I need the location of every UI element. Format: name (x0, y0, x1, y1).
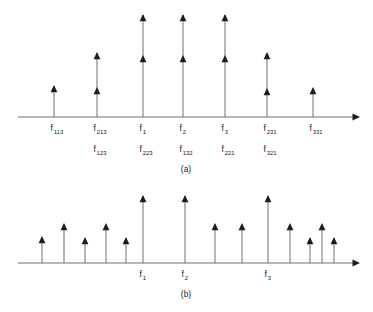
panel-b: f1f2f3(b) (18, 195, 360, 299)
line-b-13-arrow-icon (319, 223, 326, 230)
label-f331-sub: 331 (313, 129, 324, 135)
sub-head-223-arrow-icon (140, 55, 147, 62)
label-f321: f321 (264, 144, 278, 156)
panel-a: f113f213f1f2f3f231f331f123f223f132f221f3… (18, 14, 360, 174)
short-line-331-arrow-icon (310, 87, 317, 94)
label-f231: f231 (264, 123, 278, 135)
label-f321-sub: 321 (267, 150, 278, 156)
sub-head-321-arrow-icon (264, 88, 271, 95)
label-f221: f221 (222, 144, 236, 156)
line-b-14-arrow-icon (331, 237, 338, 244)
label-b-f1-sub: 1 (143, 275, 147, 281)
tall-line-1-arrow-icon (140, 14, 147, 21)
label-f132-sub: 132 (183, 150, 194, 156)
label-f213-sub: 213 (97, 129, 108, 135)
label-f221-sub: 221 (225, 150, 236, 156)
label-b-f3: f3 (265, 269, 272, 281)
line-b-10-arrow-icon (265, 195, 272, 202)
mid-line-231-arrow-icon (264, 52, 271, 59)
label-b-f2-sub: 2 (185, 275, 189, 281)
line-b-11-arrow-icon (287, 223, 294, 230)
line-b-8-arrow-icon (212, 223, 219, 230)
label-f223-sub: 223 (143, 150, 154, 156)
line-b-5-arrow-icon (123, 237, 130, 244)
label-f2: f2 (180, 123, 187, 135)
panel-b-axis-arrow-icon (353, 260, 361, 267)
spectrum-figure: f113f213f1f2f3f231f331f123f223f132f221f3… (0, 0, 373, 312)
label-f1: f1 (140, 123, 147, 135)
line-b-4-arrow-icon (103, 223, 110, 230)
label-f132: f132 (180, 144, 194, 156)
panel-a-caption: (a) (181, 164, 192, 174)
line-b-12-arrow-icon (307, 237, 314, 244)
panel-a-axis-arrow-icon (353, 114, 361, 121)
label-f3: f3 (222, 123, 229, 135)
label-b-f3-sub: 3 (268, 275, 272, 281)
label-f213: f213 (94, 123, 108, 135)
line-b-3-arrow-icon (82, 237, 89, 244)
label-f123-sub: 123 (97, 150, 108, 156)
mid-line-213-arrow-icon (94, 52, 101, 59)
label-f113: f113 (51, 123, 64, 135)
line-b-7-arrow-icon (182, 195, 189, 202)
label-f331: f331 (310, 123, 324, 135)
label-f2-sub: 2 (183, 129, 187, 135)
label-b-f1: f1 (140, 269, 147, 281)
label-f231-sub: 231 (267, 129, 278, 135)
line-b-1-arrow-icon (39, 236, 46, 243)
line-b-6-arrow-icon (140, 195, 147, 202)
line-b-2-arrow-icon (61, 223, 68, 230)
sub-head-221-arrow-icon (222, 55, 229, 62)
label-b-f2: f2 (182, 269, 189, 281)
label-f1-sub: 1 (143, 129, 147, 135)
label-f3-sub: 3 (225, 129, 229, 135)
label-f123: f123 (94, 144, 108, 156)
short-line-113-arrow-icon (51, 85, 58, 92)
tall-line-3-arrow-icon (222, 14, 229, 21)
panel-b-caption: (b) (181, 289, 192, 299)
tall-line-2-arrow-icon (180, 14, 187, 21)
label-f113-sub: 113 (54, 129, 64, 135)
sub-head-132-arrow-icon (180, 55, 187, 62)
label-f223: f223 (140, 144, 154, 156)
line-b-9-arrow-icon (239, 223, 246, 230)
sub-head-123-arrow-icon (94, 87, 101, 94)
figure-container: f113f213f1f2f3f231f331f123f223f132f221f3… (0, 0, 373, 312)
